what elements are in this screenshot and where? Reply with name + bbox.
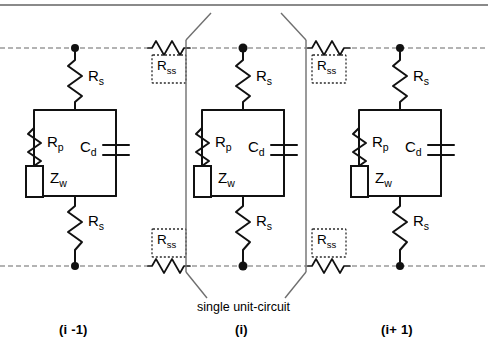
cd-label: Cd [405,138,422,158]
unit-cell-i [194,44,297,271]
rs-bottom-label: Rs [413,212,429,232]
rs-bottom-label: Rs [256,212,272,232]
node-dot-bottom [396,262,404,270]
rs-top-label: Rs [88,67,104,87]
circuit-diagram-figure: .wire{stroke:#111;stroke-width:2;fill:no… [0,0,488,354]
parallel-branch-frame [359,110,441,196]
rs-top-label: Rs [256,67,272,87]
rss-bottom-right-label: Rss [317,232,336,250]
parallel-branch-frame [202,110,284,196]
zw-label: Zw [218,169,235,189]
single-unit-circuit-label: single unit-circuit [197,300,290,314]
rs-top-resistor [68,52,82,110]
rss-bottom-left-label: Rss [157,232,176,250]
rss-top-right-label: Rss [317,58,336,76]
node-dot-bottom [71,262,79,270]
node-dot-top [396,44,404,52]
rss-top-left-label: Rss [157,58,176,76]
cd-label: Cd [80,138,97,158]
zw-label: Zw [50,169,67,189]
rs-bottom-resistor [393,196,407,262]
rs-bottom-resistor [236,196,250,262]
parallel-branch-frame [34,110,116,196]
rp-label: Rp [372,133,389,153]
rp-label: Rp [215,133,232,153]
rs-bottom-label: Rs [88,212,104,232]
cd-label: Cd [248,138,265,158]
rs-top-resistor [393,52,407,110]
rp-label: Rp [47,133,64,153]
zw-warburg-box [194,166,211,197]
cell-index-label-i-plus-1: (i+ 1) [381,322,413,337]
unit-cell-i-minus-1 [26,44,129,270]
rs-top-resistor [236,52,250,110]
node-dot-top [71,44,79,52]
cell-index-label-i: (i) [235,322,248,337]
zw-warburg-box [351,166,368,197]
rs-bottom-resistor [68,196,82,262]
unit-cell-i-plus-1 [351,44,454,270]
zw-label: Zw [375,169,392,189]
node-dot-bottom [239,262,248,271]
cell-index-label-i-minus-1: (i -1) [59,322,88,337]
rs-top-label: Rs [413,67,429,87]
zw-warburg-box [26,166,43,197]
